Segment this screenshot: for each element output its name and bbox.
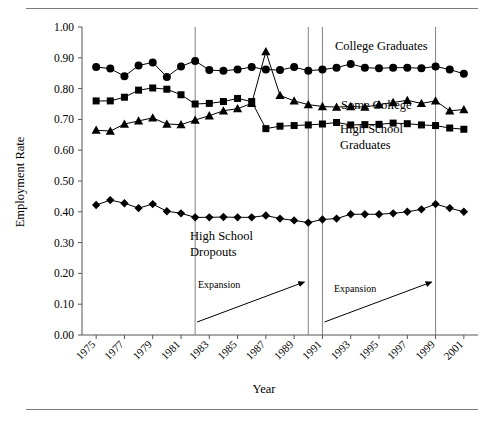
data-point-marker (234, 66, 242, 74)
series-label-college-graduates: College Graduates (335, 39, 428, 53)
data-point-marker (375, 210, 383, 218)
data-point-marker (332, 214, 340, 222)
data-point-marker (149, 58, 157, 66)
data-point-marker (149, 84, 156, 91)
x-tick-label: 2001 (441, 338, 465, 362)
data-point-marker (304, 218, 312, 226)
data-point-marker (106, 65, 114, 73)
data-point-marker (120, 72, 128, 80)
data-point-marker (389, 209, 397, 217)
data-point-marker (375, 64, 383, 72)
data-point-marker (460, 126, 467, 133)
data-point-marker (191, 57, 199, 65)
series-some-college (92, 47, 469, 135)
data-point-marker (92, 201, 100, 209)
y-axis-title: Employment Rate (13, 136, 27, 227)
series-label-high-school-dropouts-line2: Dropouts (190, 245, 237, 259)
data-point-marker (177, 62, 185, 70)
data-point-marker (248, 213, 256, 221)
data-point-marker (417, 205, 425, 213)
expansion-label-second: Expansion (334, 283, 376, 294)
data-point-marker (120, 199, 128, 207)
data-point-marker (432, 122, 439, 129)
y-tick-label: 0.30 (54, 237, 74, 249)
data-point-marker (459, 105, 468, 113)
data-point-marker (134, 204, 142, 212)
y-tick-label: 0.60 (54, 144, 74, 156)
figure-container: 0.000.100.200.300.400.500.600.700.800.90… (0, 0, 499, 421)
data-point-marker (262, 125, 269, 132)
data-point-marker (319, 121, 326, 128)
y-axis: 0.000.100.200.300.400.500.600.700.800.90… (54, 21, 82, 341)
data-point-marker (291, 122, 298, 129)
data-point-marker (333, 64, 341, 72)
data-point-marker (191, 213, 199, 221)
data-point-marker (163, 207, 171, 215)
data-point-marker (403, 208, 411, 216)
data-point-marker (135, 87, 142, 94)
x-tick-label: 1979 (130, 338, 154, 362)
data-point-marker (205, 213, 213, 221)
data-point-marker (205, 111, 214, 119)
data-point-marker (248, 98, 255, 105)
y-tick-label: 0.40 (54, 206, 74, 218)
data-point-marker (361, 64, 369, 72)
data-point-marker (149, 200, 157, 208)
data-point-marker (233, 213, 241, 221)
data-point-marker (148, 113, 157, 121)
data-point-marker (93, 97, 100, 104)
data-point-marker (389, 64, 397, 72)
y-tick-label: 0.70 (54, 113, 74, 125)
x-tick-label: 1991 (300, 338, 324, 362)
data-point-marker (417, 64, 425, 72)
data-point-marker (219, 213, 227, 221)
chart-plot-area: 0.000.100.200.300.400.500.600.700.800.90… (0, 0, 499, 421)
data-point-marker (446, 125, 453, 132)
x-tick-label: 1987 (243, 338, 267, 362)
data-point-marker (318, 66, 326, 74)
data-point-marker (277, 123, 284, 130)
data-point-marker (92, 63, 100, 71)
data-point-marker (318, 215, 326, 223)
data-point-marker (431, 200, 439, 208)
data-point-marker (220, 98, 227, 105)
data-point-marker (233, 104, 242, 112)
data-point-marker (290, 63, 298, 71)
y-tick-label: 0.20 (54, 267, 74, 279)
x-axis-title: Year (252, 382, 276, 396)
data-point-marker (305, 121, 312, 128)
data-point-marker (205, 66, 213, 74)
data-point-marker (178, 91, 185, 98)
data-point-marker (446, 204, 454, 212)
y-tick-label: 0.10 (54, 298, 74, 310)
expansion-label-first: Expansion (198, 279, 240, 290)
data-point-marker (361, 210, 369, 218)
data-point-marker (347, 60, 355, 68)
x-tick-label: 1981 (158, 338, 182, 362)
data-point-marker (290, 216, 298, 224)
data-point-marker (163, 86, 170, 93)
employment-rate-line-chart: 0.000.100.200.300.400.500.600.700.800.90… (0, 0, 499, 421)
data-point-marker (276, 214, 284, 222)
series-college-graduates (92, 57, 468, 81)
data-point-marker (177, 209, 185, 217)
data-point-marker (234, 95, 241, 102)
y-tick-label: 1.00 (54, 21, 74, 33)
data-point-marker (121, 94, 128, 101)
x-tick-label: 1977 (102, 338, 126, 362)
x-tick-label: 1999 (413, 338, 437, 362)
data-point-marker (404, 120, 411, 127)
data-point-marker (446, 66, 454, 74)
series-label-some-college: Some College (341, 98, 412, 112)
data-point-marker (276, 66, 284, 74)
y-tick-label: 0.50 (54, 175, 74, 187)
data-point-marker (460, 208, 468, 216)
data-point-marker (262, 66, 270, 74)
data-point-marker (107, 97, 114, 104)
data-point-marker (162, 119, 171, 127)
series-label-high-school-graduates-line1: High School (340, 122, 403, 136)
data-series-group (92, 47, 469, 227)
data-point-marker (261, 47, 270, 55)
data-point-marker (206, 100, 213, 107)
y-tick-label: 0.90 (54, 52, 74, 64)
